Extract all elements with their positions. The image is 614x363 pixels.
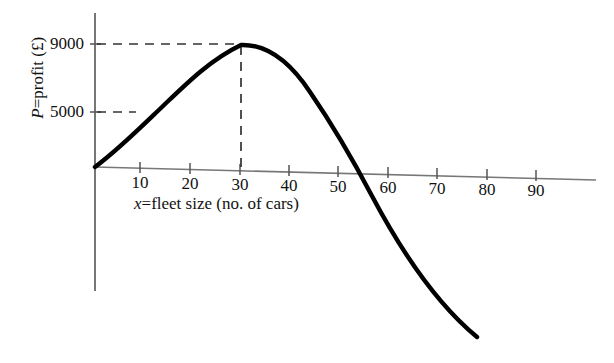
y-axis-caption-variable: P bbox=[28, 108, 47, 118]
x-tick-label-50: 50 bbox=[318, 178, 358, 195]
chart-figure: 10 20 30 40 50 60 70 80 90 9000 5000 x=f… bbox=[0, 0, 614, 363]
y-axis-caption: P=profit (£) bbox=[28, 3, 48, 153]
x-axis-caption-variable: x bbox=[134, 194, 142, 213]
x-tick-label-10: 10 bbox=[120, 174, 160, 191]
x-tick-label-40: 40 bbox=[269, 177, 309, 194]
y-tick-label-9000: 9000 bbox=[14, 35, 84, 52]
x-tick-label-60: 60 bbox=[368, 179, 408, 196]
x-tick-label-90: 90 bbox=[516, 182, 556, 199]
x-axis-caption: x=fleet size (no. of cars) bbox=[134, 194, 299, 214]
x-axis-caption-text: =fleet size (no. of cars) bbox=[142, 194, 299, 213]
y-tick-label-5000: 5000 bbox=[14, 103, 84, 120]
x-tick-label-70: 70 bbox=[417, 180, 457, 197]
x-tick-label-20: 20 bbox=[170, 175, 210, 192]
x-tick-label-80: 80 bbox=[467, 181, 507, 198]
y-axis-caption-text: =profit (£) bbox=[28, 37, 47, 108]
x-tick-label-30: 30 bbox=[220, 176, 260, 193]
